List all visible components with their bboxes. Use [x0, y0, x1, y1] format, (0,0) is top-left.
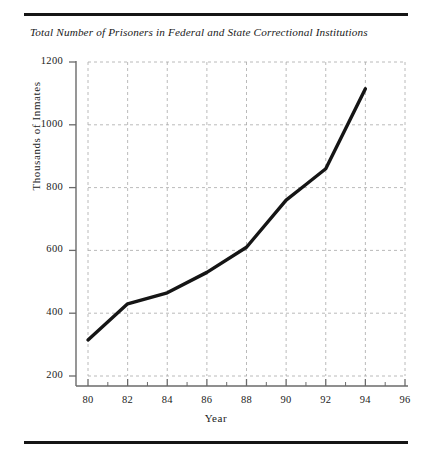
- y-tick-label: 1000: [23, 118, 63, 129]
- x-tick-label: 82: [113, 394, 143, 405]
- y-tick-label: 1200: [23, 55, 63, 66]
- x-tick-label: 86: [192, 394, 222, 405]
- x-tick-label: 92: [311, 394, 341, 405]
- y-tick-label: 400: [23, 306, 63, 317]
- data-series-line: [88, 89, 365, 340]
- series-line-total-prisoners: [88, 89, 365, 340]
- gridlines: [88, 62, 405, 376]
- y-tick-label: 200: [23, 369, 63, 380]
- axis-lines: [76, 61, 408, 386]
- chart-svg: [0, 0, 432, 459]
- x-tick-label: 80: [73, 394, 103, 405]
- y-axis-label: Thousands of Inmates: [30, 56, 42, 216]
- chart-figure: Thousands of Inmates Year 20040060080010…: [0, 0, 432, 459]
- x-tick-label: 84: [152, 394, 182, 405]
- x-tick-label: 94: [350, 394, 380, 405]
- y-tick-label: 800: [23, 181, 63, 192]
- x-tick-label: 88: [232, 394, 262, 405]
- x-axis-label: Year: [0, 412, 432, 424]
- x-tick-label: 90: [271, 394, 301, 405]
- y-tick-label: 600: [23, 243, 63, 254]
- x-tick-label: 96: [390, 394, 420, 405]
